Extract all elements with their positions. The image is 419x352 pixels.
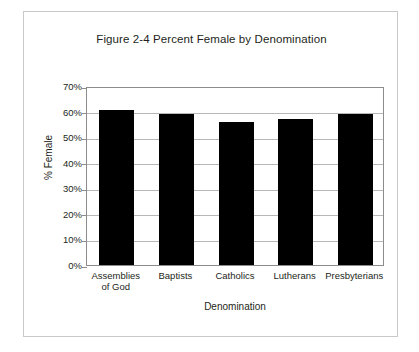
- y-axis-tick: [82, 113, 87, 114]
- x-axis-category-label: Presbyterians: [318, 270, 390, 281]
- y-axis-tick-labels: 70%60%50%40%30%20%10%0%: [44, 87, 82, 266]
- y-axis-tick: [82, 241, 87, 242]
- y-axis-tick: [82, 88, 87, 89]
- y-axis-tick-label: 30%: [48, 184, 82, 194]
- y-axis-tick: [82, 190, 87, 191]
- bar: [278, 119, 313, 265]
- y-axis-tick: [82, 215, 87, 216]
- y-axis-tick-label: 0%: [48, 261, 82, 271]
- y-axis-tick-label: 60%: [48, 108, 82, 118]
- figure-frame: Figure 2-4 Percent Female by Denominatio…: [23, 11, 398, 337]
- y-axis-tick: [82, 267, 87, 268]
- x-axis-title: Denomination: [86, 301, 384, 312]
- y-axis-tick-label: 20%: [48, 210, 82, 220]
- bar: [219, 122, 254, 265]
- y-axis-tick-label: 10%: [48, 235, 82, 245]
- figure-page: Figure 2-4 Percent Female by Denominatio…: [0, 0, 419, 352]
- y-axis-tick: [82, 139, 87, 140]
- y-axis-tick-label: 40%: [48, 159, 82, 169]
- y-axis-tick-label: 70%: [48, 82, 82, 92]
- y-axis-tick: [82, 164, 87, 165]
- chart-title: Figure 2-4 Percent Female by Denominatio…: [24, 33, 399, 45]
- bar: [338, 114, 373, 265]
- bar: [99, 110, 134, 265]
- y-axis-tick-label: 50%: [48, 133, 82, 143]
- plot-area: [86, 87, 384, 266]
- bar: [159, 114, 194, 265]
